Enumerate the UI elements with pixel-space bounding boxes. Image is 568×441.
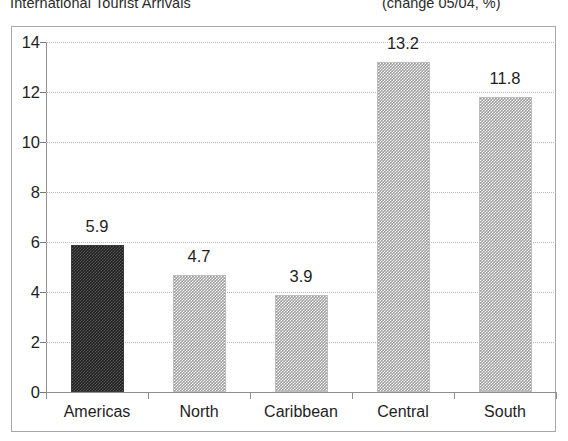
bar-caribbean[interactable]	[275, 295, 328, 393]
y-axis-labels: 02468101214	[12, 42, 40, 392]
x-tick-mark	[454, 392, 455, 399]
x-tick-mark	[148, 392, 149, 399]
bar-north[interactable]	[173, 275, 226, 393]
x-tick-mark	[46, 392, 47, 399]
chart-plot-area: 5.94.73.913.211.8	[46, 42, 556, 392]
x-axis-labels: AmericasNorthCaribbeanCentralSouth	[46, 403, 556, 433]
y-tick-mark	[40, 192, 46, 193]
y-tick-label: 4	[31, 283, 40, 302]
page-title: International Tourist Arrivals	[10, 0, 191, 11]
gridline	[46, 42, 556, 43]
x-tick-mark	[250, 392, 251, 399]
y-tick-mark	[40, 92, 46, 93]
x-tick-label: South	[445, 403, 565, 421]
y-tick-mark	[40, 242, 46, 243]
bar-value-label: 3.9	[261, 267, 341, 286]
y-tick-label: 6	[31, 233, 40, 252]
bar-value-label: 5.9	[57, 217, 137, 236]
bar-value-label: 11.8	[465, 69, 545, 88]
bar-value-label: 4.7	[159, 247, 239, 266]
y-tick-label: 12	[22, 83, 40, 102]
x-axis-ticks	[46, 392, 556, 400]
bar-value-label: 13.2	[363, 34, 443, 53]
y-tick-label: 10	[22, 133, 40, 152]
chart-plot-frame: 02468101214 5.94.73.913.211.8 AmericasNo…	[11, 26, 556, 432]
y-tick-mark	[40, 42, 46, 43]
gridline	[46, 92, 556, 93]
chart-header: International Tourist Arrivals (change 0…	[0, 0, 568, 22]
y-tick-mark	[40, 142, 46, 143]
x-tick-mark	[352, 392, 353, 399]
y-tick-label: 2	[31, 333, 40, 352]
y-tick-label: 8	[31, 183, 40, 202]
bar-central[interactable]	[377, 62, 430, 392]
y-tick-mark	[40, 342, 46, 343]
y-tick-label: 0	[31, 383, 40, 402]
chart-units-label: (change 05/04, %)	[382, 0, 501, 11]
y-tick-label: 14	[22, 33, 40, 52]
y-tick-mark	[40, 292, 46, 293]
bar-americas[interactable]	[71, 245, 124, 393]
x-tick-mark	[556, 392, 557, 399]
bar-south[interactable]	[479, 97, 532, 392]
